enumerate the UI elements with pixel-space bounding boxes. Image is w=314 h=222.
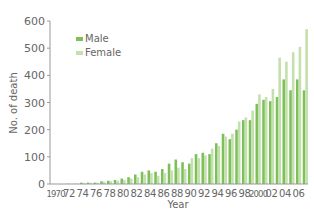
x-tick-label: 82 bbox=[131, 188, 143, 199]
x-tick-label: 94 bbox=[212, 188, 224, 199]
bar-female-1997 bbox=[238, 122, 241, 184]
bar-male-1993 bbox=[208, 154, 211, 184]
y-axis-ticks: 0100200300400500600 bbox=[24, 15, 50, 191]
bar-male-1982 bbox=[134, 174, 137, 184]
bar-male-2004 bbox=[283, 79, 286, 184]
x-tick-label: 90 bbox=[185, 188, 197, 199]
y-tick-label: 300 bbox=[24, 97, 45, 110]
bar-female-1993 bbox=[211, 149, 214, 184]
bar-female-2002 bbox=[272, 89, 275, 184]
x-axis-ticks: 1970727476788082848688909294969820000204… bbox=[46, 188, 304, 199]
legend: Male Female bbox=[76, 33, 121, 58]
x-tick-label: 76 bbox=[90, 188, 102, 199]
bar-female-2003 bbox=[278, 58, 281, 184]
bar-chart: 0100200300400500600 19707274767880828486… bbox=[0, 0, 314, 222]
bar-female-1998 bbox=[245, 117, 248, 184]
bar-male-1981 bbox=[127, 177, 130, 184]
bar-female-1991 bbox=[197, 158, 200, 184]
legend-label-female: Female bbox=[85, 47, 121, 58]
bar-female-2001 bbox=[265, 97, 268, 184]
bar-male-2005 bbox=[289, 90, 292, 184]
legend-swatch-female bbox=[76, 51, 83, 55]
bar-male-1996 bbox=[229, 139, 232, 184]
y-tick-label: 0 bbox=[38, 178, 45, 191]
y-tick-label: 500 bbox=[24, 42, 45, 55]
legend-label-male: Male bbox=[85, 33, 109, 44]
bar-male-1992 bbox=[202, 153, 205, 184]
legend-swatch-male bbox=[76, 37, 83, 41]
bar-male-1998 bbox=[242, 120, 245, 184]
bar-female-1994 bbox=[218, 146, 221, 184]
x-tick-label: 74 bbox=[77, 188, 89, 199]
bar-female-1996 bbox=[231, 134, 234, 184]
bar-male-1989 bbox=[181, 162, 184, 184]
x-tick-label: 02 bbox=[266, 188, 278, 199]
bar-male-2006 bbox=[296, 79, 299, 184]
bar-female-1995 bbox=[224, 136, 227, 184]
bar-female-2006 bbox=[299, 47, 302, 184]
bar-male-1994 bbox=[215, 143, 218, 184]
bar-female-2004 bbox=[285, 62, 288, 184]
bar-male-1984 bbox=[148, 170, 151, 184]
bar-female-1988 bbox=[177, 168, 180, 184]
bar-male-1986 bbox=[161, 169, 164, 184]
bar-male-1991 bbox=[195, 154, 198, 184]
x-tick-label: 78 bbox=[104, 188, 116, 199]
bar-female-1992 bbox=[204, 155, 207, 184]
bar-female-1987 bbox=[170, 170, 173, 184]
bar-female-2000 bbox=[258, 94, 261, 184]
x-tick-label: 72 bbox=[63, 188, 75, 199]
y-tick-label: 200 bbox=[24, 124, 45, 137]
bar-female-1989 bbox=[184, 169, 187, 184]
bar-female-1990 bbox=[191, 158, 194, 184]
bar-female-2007 bbox=[305, 29, 308, 184]
bar-male-1995 bbox=[222, 134, 225, 184]
bar-male-1983 bbox=[141, 172, 144, 184]
bar-male-1997 bbox=[235, 130, 238, 184]
bar-male-1990 bbox=[188, 164, 191, 184]
x-tick-label: 92 bbox=[198, 188, 210, 199]
y-axis-label: No. of death bbox=[8, 72, 19, 133]
x-tick-label: 80 bbox=[117, 188, 129, 199]
bar-male-2000 bbox=[256, 104, 259, 184]
bar-female-1980 bbox=[123, 180, 126, 184]
chart-canvas: 0100200300400500600 19707274767880828486… bbox=[0, 0, 314, 222]
x-tick-label: 84 bbox=[144, 188, 156, 199]
bar-female-1986 bbox=[164, 173, 167, 184]
bar-female-1981 bbox=[130, 179, 133, 184]
bar-female-1984 bbox=[150, 173, 153, 184]
bar-male-1980 bbox=[121, 179, 124, 184]
bar-male-2007 bbox=[303, 90, 306, 184]
bar-female-1999 bbox=[251, 111, 254, 184]
bar-male-1985 bbox=[154, 172, 157, 184]
bar-female-1982 bbox=[137, 177, 140, 184]
bar-male-2003 bbox=[276, 97, 279, 184]
bar-male-2002 bbox=[269, 101, 272, 184]
x-tick-label: 88 bbox=[171, 188, 183, 199]
x-tick-label: 86 bbox=[158, 188, 170, 199]
x-axis-label: Year bbox=[166, 199, 189, 210]
x-tick-label: 96 bbox=[225, 188, 237, 199]
x-tick-label: 06 bbox=[293, 188, 305, 199]
bar-male-2001 bbox=[262, 100, 265, 184]
x-tick-label: 04 bbox=[279, 188, 291, 199]
bar-male-1987 bbox=[168, 164, 171, 184]
bar-female-1985 bbox=[157, 176, 160, 184]
y-tick-label: 400 bbox=[24, 69, 45, 82]
bar-male-1999 bbox=[249, 120, 252, 184]
bar-female-1983 bbox=[143, 174, 146, 184]
y-tick-label: 600 bbox=[24, 15, 45, 28]
bar-male-1988 bbox=[175, 160, 178, 184]
y-tick-label: 100 bbox=[24, 151, 45, 164]
bar-male-1979 bbox=[114, 180, 117, 184]
bar-female-2005 bbox=[292, 52, 295, 184]
